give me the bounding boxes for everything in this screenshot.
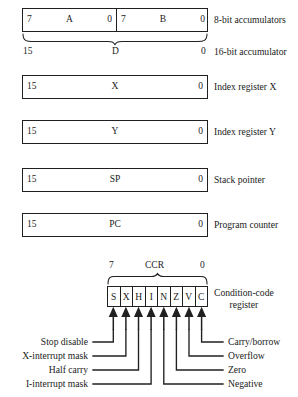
ccr-bit-n-label: N: [160, 292, 167, 302]
arrow-bit-c: [198, 309, 205, 331]
program-counter-name: PC: [23, 220, 207, 230]
ccr-description-line-2: register: [214, 299, 274, 311]
ccr-description-line-1: Condition-code: [214, 287, 274, 299]
register-program-counter-description: Program counter: [214, 219, 278, 230]
ccr-bit-x-label: X: [123, 292, 130, 302]
leader-x-interrupt-mask: [93, 330, 126, 356]
ccr-bit-z: Z: [171, 287, 184, 306]
callout-label-zero: Zero: [228, 365, 246, 375]
index-x-lsb: 0: [198, 82, 203, 92]
ccr-bit-n: N: [158, 287, 171, 306]
register-stack-pointer-description: Stack pointer: [214, 174, 265, 185]
register-accumulator-b: 7 B 0: [116, 9, 209, 31]
ccr-register-box: S X H I N Z V C: [107, 286, 208, 307]
callout-label-stop-disable: Stop disable: [0, 337, 88, 347]
ccr-bit-x: X: [121, 287, 134, 306]
register-index-x-box: 15 X 0: [22, 75, 208, 99]
arrow-bit-h: [135, 309, 142, 331]
register-stack-pointer-box: 15 SP 0: [22, 168, 208, 192]
register-index-y-box: 15 Y 0: [22, 120, 208, 144]
register-accumulators-box: 7 A 0 7 B 0: [22, 8, 208, 32]
ccr-bit-c: C: [196, 287, 208, 306]
accumulator-d-name: D: [112, 47, 119, 57]
register-index-x-description: Index register X: [214, 81, 276, 92]
accumulator-d-brace: [23, 34, 207, 45]
callout-label-negative: Negative: [228, 379, 263, 389]
stack-pointer-name: SP: [23, 175, 207, 185]
ccr-bit-v: V: [183, 287, 196, 306]
accumulator-a-name: A: [23, 15, 116, 25]
accumulator-d-lsb: 0: [201, 47, 206, 57]
callout-label-carry-borrow: Carry/borrow: [228, 337, 280, 347]
ccr-description: Condition-code register: [214, 287, 274, 310]
leader-i-interrupt-mask: [93, 330, 151, 384]
register-index-y-description: Index register Y: [214, 126, 276, 137]
accumulator-b-name: B: [117, 15, 209, 25]
ccr-bit-z-label: Z: [173, 292, 179, 302]
register-accumulators-description: 8-bit accumulators: [214, 14, 286, 25]
arrow-bit-n: [160, 309, 167, 331]
arrow-bit-z: [173, 309, 180, 331]
arrow-bit-x: [123, 309, 130, 331]
register-accumulator-a: 7 A 0: [23, 9, 116, 31]
arrow-bit-v: [186, 309, 193, 331]
ccr-bit-i-label: I: [150, 292, 153, 302]
callout-label-half-carry: Half carry: [0, 365, 88, 375]
leader-zero: [176, 330, 223, 370]
index-x-name: X: [23, 82, 207, 92]
ccr-right-leaders: [164, 330, 223, 384]
leader-negative: [164, 330, 223, 384]
ccr-bit-arrows: [110, 309, 205, 331]
accumulator-d-msb: 15: [23, 47, 33, 57]
ccr-name: CCR: [145, 261, 164, 271]
ccr-msb: 7: [109, 261, 114, 271]
leader-stop-disable: [93, 330, 113, 342]
ccr-bit-v-label: V: [185, 292, 192, 302]
accumulator-a-lsb: 0: [107, 15, 112, 25]
callout-label-x-interrupt-mask: X-interrupt mask: [0, 351, 88, 361]
ccr-left-leaders: [93, 330, 151, 384]
stack-pointer-lsb: 0: [198, 175, 203, 185]
register-accumulator-d-description: 16-bit accumulator: [214, 46, 287, 57]
callout-label-i-interrupt-mask: I-interrupt mask: [0, 379, 88, 389]
ccr-bit-c-label: C: [198, 292, 204, 302]
ccr-brace: [108, 274, 207, 284]
register-diagram: 7 A 0 7 B 0 8-bit accumulators 15 D 0 16…: [0, 0, 298, 397]
arrow-bit-i: [148, 309, 155, 331]
ccr-bit-i: I: [146, 287, 159, 306]
ccr-bit-s: S: [108, 287, 121, 306]
program-counter-lsb: 0: [198, 220, 203, 230]
ccr-bit-s-label: S: [111, 292, 116, 302]
arrow-bit-s: [110, 309, 117, 331]
index-y-name: Y: [23, 127, 207, 137]
ccr-bit-h-label: H: [135, 292, 142, 302]
ccr-lsb: 0: [200, 261, 205, 271]
callout-label-overflow: Overflow: [228, 351, 265, 361]
register-program-counter-box: 15 PC 0: [22, 213, 208, 237]
ccr-bit-h: H: [133, 287, 146, 306]
leader-overflow: [189, 330, 223, 356]
leader-carry-borrow: [202, 330, 223, 342]
accumulator-b-lsb: 0: [200, 15, 205, 25]
leader-half-carry: [93, 330, 139, 370]
index-y-lsb: 0: [198, 127, 203, 137]
